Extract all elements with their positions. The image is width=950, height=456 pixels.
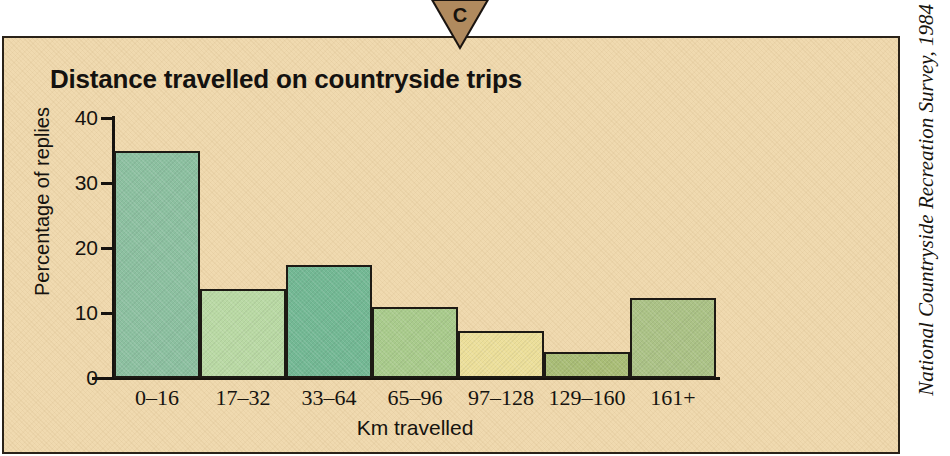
bar-texture	[632, 300, 714, 376]
x-axis-tick-label: 97–128	[458, 386, 544, 410]
y-axis-tick-label: 30	[56, 172, 98, 193]
section-marker-label: C	[431, 4, 489, 26]
bar-texture	[460, 333, 542, 376]
y-axis-tick-labels: 010203040	[52, 38, 98, 454]
bar	[630, 298, 716, 378]
y-axis-tick	[101, 377, 113, 380]
bar	[200, 289, 286, 378]
bar	[458, 331, 544, 378]
y-axis-tick-label: 40	[56, 107, 98, 128]
figure-panel: Distance travelled on countryside trips …	[2, 36, 900, 454]
x-axis-tick-label: 0–16	[114, 386, 200, 410]
y-axis-tick	[101, 247, 113, 250]
bar	[114, 151, 200, 379]
x-axis-tick-label: 65–96	[372, 386, 458, 410]
bar	[372, 307, 458, 379]
x-axis-title: Km travelled	[114, 416, 716, 440]
chart-title: Distance travelled on countryside trips	[50, 64, 522, 95]
y-axis-tick	[101, 117, 113, 120]
source-credit-text: National Countryside Recreation Survey, …	[914, 0, 939, 456]
y-axis-tick-label: 20	[56, 237, 98, 258]
section-marker-c: C	[431, 0, 489, 52]
bar-texture	[116, 153, 198, 377]
y-axis-tick	[101, 312, 113, 315]
plot-area	[114, 118, 716, 378]
bar-texture	[374, 309, 456, 377]
y-axis-tick	[101, 182, 113, 185]
bar	[286, 265, 372, 378]
x-axis-tick-label: 17–32	[200, 386, 286, 410]
x-axis-tick-label: 33–64	[286, 386, 372, 410]
source-credit-area: National Countryside Recreation Survey, …	[902, 0, 950, 456]
bar-texture	[288, 267, 370, 376]
y-axis-tick-label: 10	[56, 302, 98, 323]
x-axis-tick-label: 161+	[630, 386, 716, 410]
bar-texture	[546, 354, 628, 376]
bar	[544, 352, 630, 378]
y-axis-tick-label: 0	[56, 367, 98, 388]
x-axis-tick-label: 129–160	[544, 386, 630, 410]
bar-texture	[202, 291, 284, 376]
y-axis-title: Percentage of replies	[31, 87, 54, 317]
